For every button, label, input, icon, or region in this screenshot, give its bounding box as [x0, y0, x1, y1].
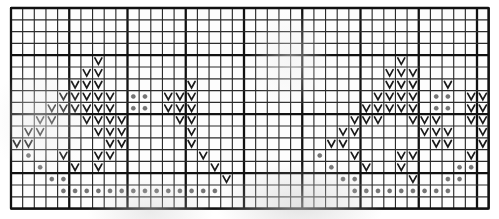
purl-dot-icon: [376, 189, 380, 193]
purl-dot-icon: [26, 153, 30, 157]
purl-dot-icon: [434, 94, 438, 98]
purl-dot-icon: [318, 153, 322, 157]
purl-dot-icon: [143, 189, 147, 193]
chart-grid-svg: [0, 0, 499, 219]
purl-dot-icon: [434, 189, 438, 193]
purl-dot-icon: [446, 177, 450, 181]
purl-dot-icon: [38, 165, 42, 169]
purl-dot-icon: [131, 106, 135, 110]
purl-dot-icon: [131, 94, 135, 98]
purl-dot-icon: [120, 189, 124, 193]
purl-dot-icon: [143, 94, 147, 98]
purl-dot-icon: [457, 165, 461, 169]
purl-dot-icon: [178, 189, 182, 193]
purl-dot-icon: [446, 94, 450, 98]
purl-dot-icon: [457, 177, 461, 181]
purl-dot-icon: [50, 177, 54, 181]
purl-dot-icon: [388, 189, 392, 193]
purl-dot-icon: [411, 189, 415, 193]
purl-dot-icon: [131, 189, 135, 193]
purl-dot-icon: [364, 189, 368, 193]
purl-dot-icon: [61, 189, 65, 193]
knitting-chart: [0, 0, 499, 219]
purl-dot-icon: [143, 106, 147, 110]
purl-dot-icon: [155, 189, 159, 193]
purl-dot-icon: [108, 189, 112, 193]
purl-dot-icon: [96, 189, 100, 193]
purl-dot-icon: [423, 189, 427, 193]
purl-dot-icon: [201, 189, 205, 193]
purl-dot-icon: [399, 189, 403, 193]
purl-dot-icon: [190, 189, 194, 193]
purl-dot-icon: [434, 106, 438, 110]
purl-dot-icon: [446, 106, 450, 110]
purl-dot-icon: [353, 177, 357, 181]
purl-dot-icon: [329, 165, 333, 169]
purl-dot-icon: [61, 177, 65, 181]
purl-dot-icon: [353, 189, 357, 193]
purl-dot-icon: [341, 177, 345, 181]
purl-dot-icon: [446, 189, 450, 193]
purl-dot-icon: [469, 165, 473, 169]
purl-dot-icon: [73, 189, 77, 193]
grid-background: [11, 8, 489, 209]
purl-dot-icon: [166, 189, 170, 193]
purl-dot-icon: [213, 189, 217, 193]
purl-dot-icon: [85, 189, 89, 193]
